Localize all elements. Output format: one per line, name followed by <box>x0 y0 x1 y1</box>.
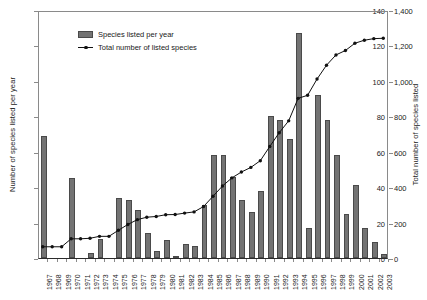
x-axis-tick-mark <box>76 259 77 262</box>
y-axis-right-tick-mark <box>389 82 393 83</box>
bar-1981 <box>173 256 179 258</box>
y-axis-right-tick-label: 1,400 <box>394 7 427 16</box>
x-axis-tick-mark <box>256 259 257 262</box>
x-axis-tick-mark <box>152 259 153 262</box>
bar-1994 <box>296 33 302 258</box>
x-axis-label-1973: 1973 <box>102 274 109 290</box>
bar-1989 <box>249 212 255 258</box>
bar-1980 <box>164 240 170 258</box>
bar-1970 <box>69 178 75 258</box>
y-axis-right-tick-label: 600 <box>394 148 427 157</box>
bar-1995 <box>306 228 312 258</box>
y-axis-right-tick-label: 800 <box>394 113 427 122</box>
x-axis-label-1974: 1974 <box>112 274 119 290</box>
x-axis-tick-mark <box>218 259 219 262</box>
x-axis-label-1993: 1993 <box>292 274 299 290</box>
x-axis-tick-mark <box>47 259 48 262</box>
x-axis-label-1971: 1971 <box>84 274 91 290</box>
x-axis-label-1969: 1969 <box>65 274 72 290</box>
x-axis-label-1996: 1996 <box>320 274 327 290</box>
y-axis-right-tick-mark <box>389 188 393 189</box>
x-axis-tick-mark <box>208 259 209 262</box>
x-axis-label-2003: 2003 <box>386 274 393 290</box>
x-axis-label-1976: 1976 <box>131 274 138 290</box>
y-axis-right-tick-mark <box>389 224 393 225</box>
x-axis-tick-mark <box>312 259 313 262</box>
y-axis-right-tick-mark <box>389 11 393 12</box>
bar-1987 <box>230 177 236 258</box>
y-axis-right-tick-label: 1,000 <box>394 77 427 86</box>
x-axis-tick-mark <box>293 259 294 262</box>
bar-1999 <box>344 214 350 258</box>
x-axis-label-1972: 1972 <box>93 274 100 290</box>
bar-1988 <box>239 200 245 258</box>
x-axis-label-2001: 2001 <box>367 274 374 290</box>
bar-2000 <box>353 185 359 258</box>
x-axis-tick-mark <box>265 259 266 262</box>
x-axis-label-1991: 1991 <box>273 274 280 290</box>
chart-container: Number of species listed per year Total … <box>0 0 427 300</box>
bar-1975 <box>116 198 122 258</box>
y-axis-left-tick-mark <box>34 259 38 260</box>
x-axis-tick-mark <box>123 259 124 262</box>
bar-1997 <box>325 120 331 258</box>
x-axis-label-1967: 1967 <box>46 274 53 290</box>
x-axis-label-1994: 1994 <box>301 274 308 290</box>
bar-1967 <box>41 136 47 258</box>
x-axis-label-1970: 1970 <box>74 274 81 290</box>
x-axis-tick-mark <box>161 259 162 262</box>
x-axis-tick-mark <box>57 259 58 262</box>
x-axis-tick-mark <box>142 259 143 262</box>
x-axis-label-1981: 1981 <box>178 274 185 290</box>
chart-legend: Species listed per year Total number of … <box>78 28 197 54</box>
y-axis-right-tick-label: 1,200 <box>394 42 427 51</box>
x-axis-tick-mark <box>369 259 370 262</box>
x-axis-tick-mark <box>360 259 361 262</box>
x-axis-tick-mark <box>227 259 228 262</box>
legend-label-bar: Species listed per year <box>98 30 174 39</box>
x-axis-tick-mark <box>246 259 247 262</box>
x-axis-label-1989: 1989 <box>254 274 261 290</box>
bar-1992 <box>277 120 283 258</box>
x-axis-tick-mark <box>114 259 115 262</box>
bar-1985 <box>211 155 217 258</box>
x-axis-label-1975: 1975 <box>121 274 128 290</box>
bar-1982 <box>183 244 189 258</box>
bar-1976 <box>126 200 132 258</box>
x-axis-label-2000: 2000 <box>358 274 365 290</box>
x-axis-label-1986: 1986 <box>225 274 232 290</box>
y-axis-right-tick-mark <box>389 259 393 260</box>
x-axis-label-1987: 1987 <box>235 274 242 290</box>
bar-1984 <box>202 205 208 258</box>
x-axis-tick-mark <box>237 259 238 262</box>
x-axis-tick-mark <box>95 259 96 262</box>
x-axis-label-1979: 1979 <box>159 274 166 290</box>
bar-1977 <box>135 210 141 258</box>
x-axis-tick-mark <box>350 259 351 262</box>
bar-1986 <box>221 155 227 258</box>
y-axis-right-tick-label: 400 <box>394 184 427 193</box>
x-axis-label-1999: 1999 <box>348 274 355 290</box>
x-axis-tick-mark <box>133 259 134 262</box>
y-axis-left-title: Number of species listed per year <box>8 60 17 210</box>
legend-line-marker-icon <box>78 44 93 51</box>
legend-bar-swatch-icon <box>78 31 93 38</box>
x-axis-tick-mark <box>85 259 86 262</box>
legend-item-line: Total number of listed species <box>78 41 197 54</box>
bar-2002 <box>372 242 378 258</box>
legend-label-line: Total number of listed species <box>98 43 197 52</box>
bar-1991 <box>268 116 274 258</box>
x-axis-tick-mark <box>284 259 285 262</box>
x-axis-tick-mark <box>199 259 200 262</box>
x-axis-tick-mark <box>322 259 323 262</box>
x-axis-tick-mark <box>170 259 171 262</box>
y-axis-right-tick-label: 200 <box>394 219 427 228</box>
bar-1978 <box>145 233 151 258</box>
y-axis-right-tick-mark <box>389 117 393 118</box>
bar-1979 <box>154 251 160 258</box>
x-axis-label-1968: 1968 <box>55 274 62 290</box>
x-axis-label-1990: 1990 <box>263 274 270 290</box>
x-axis-label-1992: 1992 <box>282 274 289 290</box>
x-axis-label-1984: 1984 <box>207 274 214 290</box>
bar-1973 <box>98 239 104 258</box>
